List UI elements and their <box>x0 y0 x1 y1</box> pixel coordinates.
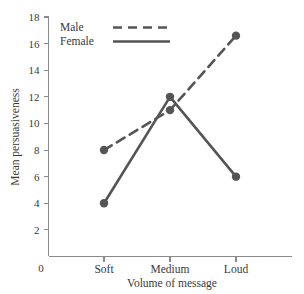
data-series-layer <box>104 36 236 204</box>
chart-canvas: 24681012141618 SoftMediumLoud 0 Volume o… <box>0 0 304 294</box>
y-tick-label: 2 <box>34 224 40 236</box>
y-tick-label: 18 <box>29 11 41 23</box>
data-point-female-loud <box>232 172 240 180</box>
x-category-label: Medium <box>151 263 190 275</box>
x-category-label: Loud <box>224 263 249 275</box>
y-tick-label: 8 <box>34 144 40 156</box>
data-point-female-soft <box>100 199 108 207</box>
y-axis-tick-labels: 24681012141618 <box>29 11 41 236</box>
data-point-male-medium <box>166 106 174 114</box>
origin-label: 0 <box>38 262 44 274</box>
data-marker-layer <box>100 31 240 207</box>
chart-legend: Male Female <box>60 21 170 47</box>
interaction-line-chart: 24681012141618 SoftMediumLoud 0 Volume o… <box>0 0 304 294</box>
y-tick-label: 10 <box>29 117 41 129</box>
y-axis-title: Mean persuasiveness <box>9 88 22 186</box>
y-axis-ticks <box>44 17 49 230</box>
x-axis-category-labels: SoftMediumLoud <box>94 263 248 275</box>
data-point-male-loud <box>232 31 240 39</box>
data-point-male-soft <box>100 146 108 154</box>
x-axis-title: Volume of message <box>127 277 217 290</box>
y-tick-label: 14 <box>29 64 41 76</box>
y-tick-label: 16 <box>29 38 41 50</box>
x-axis-ticks <box>104 257 236 262</box>
data-point-female-medium <box>166 93 174 101</box>
legend-label-male: Male <box>60 21 84 33</box>
y-tick-label: 6 <box>34 171 40 183</box>
y-tick-label: 12 <box>29 91 40 103</box>
y-tick-label: 4 <box>34 197 40 209</box>
legend-label-female: Female <box>60 35 94 47</box>
x-category-label: Soft <box>94 263 114 275</box>
